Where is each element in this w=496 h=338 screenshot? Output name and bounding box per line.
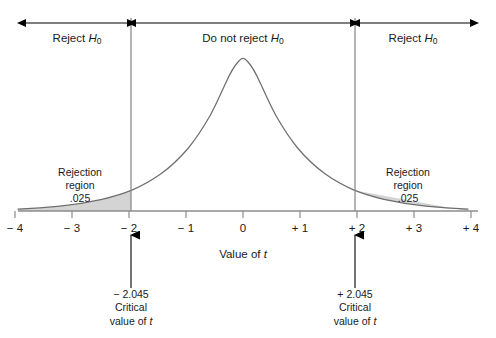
tick-label-minus-1: − 1: [166, 222, 206, 236]
right-rejection-region-label: Rejection region .025: [363, 166, 453, 205]
right-critical-value: + 2.045: [305, 288, 405, 301]
x-axis-ticks: [15, 211, 471, 218]
tick-label-plus-2: + 2: [337, 222, 377, 236]
left-rejection-area: .025: [35, 192, 125, 205]
left-rejection-region-label: Rejection region .025: [35, 166, 125, 205]
left-critical-word: Critical: [81, 301, 181, 314]
tick-label-plus-4: + 4: [451, 222, 491, 236]
x-axis-title: Value of t: [193, 248, 293, 262]
right-critical-value-callout: + 2.045 Critical value of t: [305, 288, 405, 328]
left-reject-region-label: Reject H0: [30, 32, 124, 46]
tick-label-zero: 0: [223, 222, 263, 236]
left-rejection-line2: region: [35, 179, 125, 192]
left-rejection-line1: Rejection: [35, 166, 125, 179]
tick-label-minus-4: − 4: [0, 222, 35, 236]
right-rejection-line2: region: [363, 179, 453, 192]
right-rejection-line1: Rejection: [363, 166, 453, 179]
tick-label-minus-3: − 3: [52, 222, 92, 236]
tick-label-plus-3: + 3: [394, 222, 434, 236]
left-critical-value-callout: − 2.045 Critical value of t: [81, 288, 181, 328]
t-distribution-rejection-region-figure: Reject H0 Do not reject H0 Reject H0 Rej…: [0, 0, 496, 338]
tick-label-plus-1: + 1: [280, 222, 320, 236]
tick-label-minus-2: − 2: [109, 222, 149, 236]
do-not-reject-region-label: Do not reject H0: [146, 32, 340, 46]
right-critical-word: Critical: [305, 301, 405, 314]
right-critical-valueof: value of t: [305, 315, 405, 328]
right-rejection-area: .025: [363, 192, 453, 205]
left-critical-value: − 2.045: [81, 288, 181, 301]
left-critical-valueof: value of t: [81, 315, 181, 328]
right-reject-region-label: Reject H0: [363, 32, 463, 46]
